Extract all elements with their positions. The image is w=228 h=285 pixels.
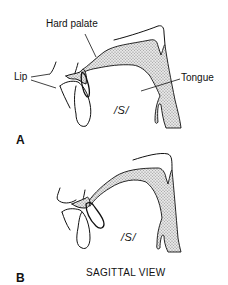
panel-letter-a: A	[16, 134, 25, 146]
label-tongue: Tongue	[181, 73, 214, 83]
panel-b-drawing	[57, 153, 181, 252]
tongue-palate-shading-a	[82, 40, 181, 128]
hard-palate-leader	[85, 34, 96, 57]
figure-caption: SAGITTAL VIEW	[86, 268, 165, 278]
phoneme-label-a: /S/	[114, 105, 129, 116]
label-hard-palate: Hard palate	[46, 19, 98, 29]
phoneme-label-b: /S/	[121, 232, 136, 243]
label-lip: Lip	[14, 72, 27, 82]
panel-letter-b: B	[16, 272, 25, 284]
lip-leader-lower	[31, 80, 56, 88]
articulation-diagram	[0, 0, 228, 285]
lip-leader-upper	[31, 74, 50, 77]
sagittal-view-figure: Hard palate Lip Tongue /S/ A /S/ B SAGIT…	[0, 0, 228, 285]
